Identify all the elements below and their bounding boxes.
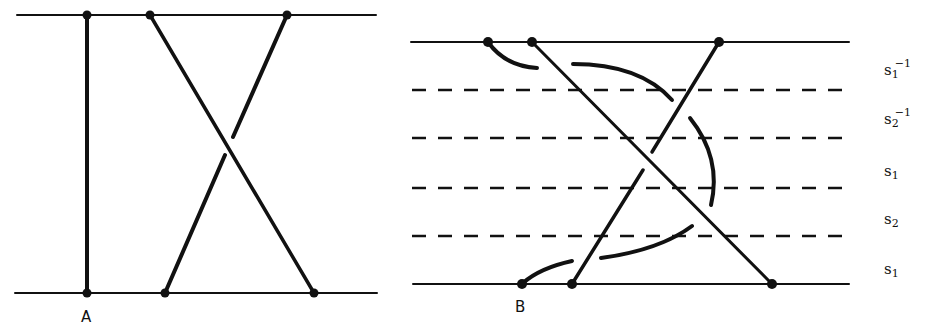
generator-label: s1−1 [884,57,911,81]
braid-diagram [0,0,930,334]
panel-b-label: B [515,298,525,316]
arc-3 [690,118,714,205]
level-lines [412,90,850,236]
under-strand-upper [233,15,287,137]
generator-label: s1 [884,256,895,280]
under-strand-upper [652,42,719,152]
nodes [83,11,778,298]
arc-2 [573,64,672,100]
arc-5 [523,261,572,283]
panel-a-label: A [81,308,91,326]
arc-4 [601,226,692,258]
panel-b [411,42,850,284]
generator-label: s2−1 [884,106,911,130]
generator-label: s1 [884,158,895,182]
over-strand [150,15,314,293]
panel-a [15,15,377,293]
generator-label: s2 [884,206,895,230]
under-strand-lower [165,155,225,293]
